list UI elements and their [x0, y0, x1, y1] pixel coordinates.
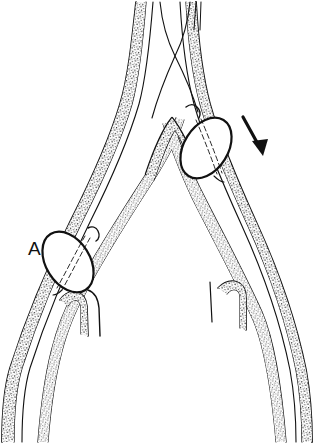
left-iliac-artery-wall: [2, 2, 153, 442]
right-iliac-artery-wall: [180, 2, 312, 442]
guidewire-right: [152, 2, 190, 118]
right-lumen-inner-edge-2: [163, 124, 276, 442]
right-internal-iliac-stub: [210, 281, 246, 330]
medical-illustration-figure: A: [0, 0, 320, 444]
label-a: A: [28, 239, 41, 258]
illustration-canvas: [0, 0, 320, 444]
direction-arrow: [243, 117, 268, 156]
illustration-linework: [2, 2, 312, 442]
